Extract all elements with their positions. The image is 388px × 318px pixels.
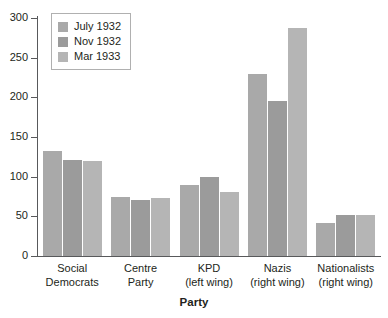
bar [316,223,335,256]
bar [83,161,102,256]
chart-legend: July 1932 Nov 1932 Mar 1933 [51,13,131,70]
category-label-line1: KPD [198,262,221,274]
x-axis-category-label: CentreParty [106,262,174,289]
legend-item-july-1932: July 1932 [58,19,121,34]
bar [151,198,170,256]
category-label-line2: Party [106,276,174,290]
bar [336,215,355,256]
y-axis-tick-50 [31,216,38,217]
bar-group [316,18,375,256]
y-axis-label-100: 100 [0,171,28,182]
y-axis-label-wrap-0: 0 [0,250,28,261]
y-axis-tick-300 [31,18,38,19]
bar [131,200,150,256]
y-axis-label-150: 150 [0,131,28,142]
bar [288,28,307,256]
y-axis-label-250: 250 [0,52,28,63]
category-label-line2: (right wing) [312,276,380,290]
category-label-line1: Social [57,262,87,274]
y-axis-label-wrap-150: 150 [0,131,28,142]
y-axis-tick-100 [31,177,38,178]
x-axis-category-label: SocialDemocrats [38,262,106,289]
bar [63,160,82,256]
legend-swatch-mar-1933 [58,52,68,62]
bar-group [180,18,239,256]
bar [43,151,62,257]
y-axis-label-wrap-250: 250 [0,52,28,63]
bar [356,215,375,256]
y-axis-label-wrap-300: 300 [0,12,28,23]
y-axis-label-wrap-50: 50 [0,210,28,221]
legend-item-nov-1932: Nov 1932 [58,34,121,49]
legend-swatch-july-1932 [58,22,68,32]
y-axis-label-0: 0 [0,250,28,261]
legend-label-nov-1932: Nov 1932 [74,36,121,47]
category-label-line2: (left wing) [175,276,243,290]
bar-group [248,18,307,256]
bar [180,185,199,256]
category-label-line2: Democrats [38,276,106,290]
category-label-line2: (right wing) [243,276,311,290]
bar [200,177,219,256]
y-axis-label-300: 300 [0,12,28,23]
bar-chart: 050100150200250300 SocialDemocratsCentre… [0,0,388,318]
bar [111,197,130,257]
legend-item-mar-1933: Mar 1933 [58,49,121,64]
x-axis-category-label: KPD(left wing) [175,262,243,289]
legend-swatch-nov-1932 [58,37,68,47]
category-label-line1: Nationalists [317,262,374,274]
x-axis-title: Party [0,296,388,308]
y-axis-label-200: 200 [0,91,28,102]
x-axis-category-label: Nazis(right wing) [243,262,311,289]
y-axis-label-wrap-100: 100 [0,171,28,182]
y-axis-tick-200 [31,97,38,98]
category-label-line1: Centre [124,262,157,274]
y-axis-tick-250 [31,58,38,59]
bar [248,74,267,256]
bar [220,192,239,256]
x-axis-category-label: Nationalists(right wing) [312,262,380,289]
y-axis-tick-0 [31,256,38,257]
legend-label-mar-1933: Mar 1933 [74,51,120,62]
y-axis-label-50: 50 [0,210,28,221]
y-axis-label-wrap-200: 200 [0,91,28,102]
y-axis-tick-150 [31,137,38,138]
bar [268,101,287,256]
legend-label-july-1932: July 1932 [74,21,121,32]
x-axis-line [37,256,381,257]
category-label-line1: Nazis [264,262,292,274]
